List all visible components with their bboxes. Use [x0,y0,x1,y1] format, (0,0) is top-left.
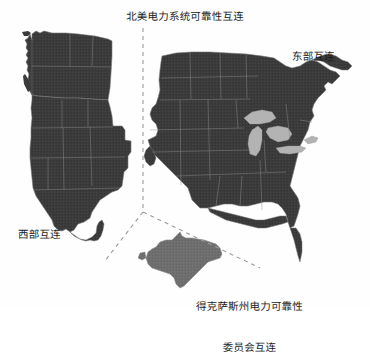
divider-left-branch [104,212,143,262]
label-ercot-line1: 得克萨斯州电力可靠性 [196,301,303,315]
label-ercot-line2: 委员会互连 [196,342,303,356]
florida-peninsula [290,228,302,262]
lake-erie [276,146,306,154]
region-western-interconnection[interactable] [22,31,131,241]
figure-title: 北美电力系统可靠性互连 [0,11,370,24]
western-south-block [30,95,131,232]
lake-ontario [304,136,318,144]
western-north-block [29,31,112,100]
region-eastern-interconnection[interactable] [144,52,352,262]
gulf-coast-strip [208,208,288,228]
texas-west-notch [138,252,146,260]
label-western-interconnection: 西部互连 [18,229,61,242]
label-ercot-interconnection: 得克萨斯州电力可靠性 委员会互连 [196,274,303,356]
label-eastern-interconnection: 东部互连 [292,51,335,64]
